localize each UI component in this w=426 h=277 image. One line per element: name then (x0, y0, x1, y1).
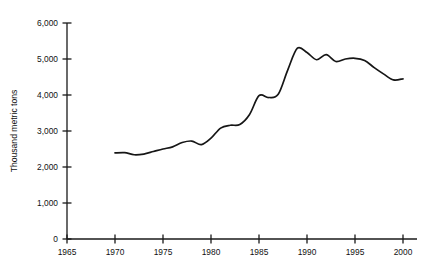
x-tick-label: 1995 (346, 247, 365, 257)
x-tick-label: 1980 (202, 247, 221, 257)
y-tick-label: 1,000 (37, 198, 58, 208)
y-axis-title: Thousand metric tons (9, 90, 19, 173)
x-tick-label: 1965 (58, 247, 77, 257)
chart-background (0, 0, 426, 277)
y-tick-label: 5,000 (37, 54, 58, 64)
x-tick-label: 1990 (298, 247, 317, 257)
y-tick-label: 2,000 (37, 162, 58, 172)
y-tick-label: 3,000 (37, 126, 58, 136)
chart-container: 01,0002,0003,0004,0005,0006,000 19651970… (0, 0, 426, 277)
line-chart: 01,0002,0003,0004,0005,0006,000 19651970… (0, 0, 426, 277)
y-tick-label: 6,000 (37, 18, 58, 28)
x-tick-label: 2000 (394, 247, 413, 257)
y-tick-label: 0 (53, 234, 58, 244)
y-tick-label: 4,000 (37, 90, 58, 100)
x-tick-label: 1970 (106, 247, 125, 257)
x-tick-label: 1975 (154, 247, 173, 257)
x-tick-label: 1985 (250, 247, 269, 257)
